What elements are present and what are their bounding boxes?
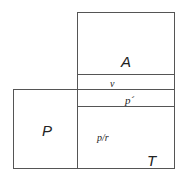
label-v: v (110, 78, 114, 89)
label-p-prime: p´ (125, 94, 134, 106)
divider-p-prime (77, 106, 175, 107)
label-t: T (147, 152, 156, 169)
divider-a (77, 74, 175, 75)
label-a: A (121, 53, 131, 70)
label-p-over-r: p/r (97, 132, 109, 143)
label-p: P (42, 122, 52, 139)
right-box (77, 12, 175, 169)
divider-v (77, 89, 175, 90)
